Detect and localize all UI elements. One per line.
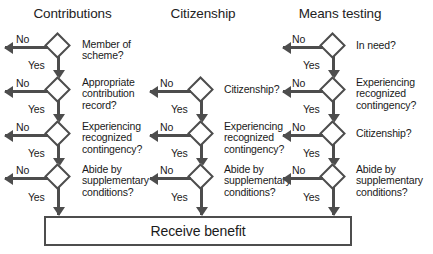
node-label-member-of-scheme: Member of scheme?: [82, 39, 144, 62]
yes-branch-label-c3: Yes: [28, 147, 45, 159]
no-branch-label-c4: No: [16, 164, 29, 176]
no-branch-label-m1: No: [292, 33, 305, 45]
no-branch-label-c3: No: [16, 121, 29, 133]
yes-branch-label-m1: Yes: [303, 59, 320, 71]
node-label-supplementary-contributions: Abide by supplementary conditions?: [82, 164, 152, 198]
no-branch-label-z2: No: [160, 77, 173, 89]
no-branch-label-c1: No: [16, 33, 29, 45]
decision-node-contingency-contributions[interactable]: [44, 120, 71, 147]
yes-branch-label-z4: Yes: [171, 191, 188, 203]
flowchart-canvas: Contributions Citizenship Means testing …: [0, 0, 433, 254]
no-branch-label-z4: No: [160, 164, 173, 176]
yes-branch-label-z3: Yes: [171, 147, 188, 159]
column-header-citizenship: Citizenship: [150, 6, 256, 21]
decision-node-supplementary-contributions[interactable]: [44, 163, 71, 190]
decision-node-supplementary-means[interactable]: [319, 163, 346, 190]
no-branch-label-z3: No: [160, 121, 173, 133]
decision-node-citizenship-col2[interactable]: [187, 76, 214, 103]
yes-branch-label-c4: Yes: [28, 191, 45, 203]
terminal-node-label: Receive benefit: [150, 223, 245, 239]
decision-node-member-of-scheme[interactable]: [44, 32, 71, 59]
decision-node-citizenship-means[interactable]: [319, 120, 346, 147]
node-label-supplementary-means: Abide by supplementary conditions?: [356, 164, 430, 198]
no-branch-label-c2: No: [16, 77, 29, 89]
decision-node-contingency-citizenship[interactable]: [187, 120, 214, 147]
column-header-means-testing: Means testing: [276, 6, 404, 21]
yes-branch-label-m2: Yes: [303, 103, 320, 115]
node-label-citizenship-means: Citizenship?: [356, 128, 428, 139]
yes-branch-label-m3: Yes: [303, 147, 320, 159]
column-header-contributions: Contributions: [0, 6, 145, 21]
node-label-contingency-citizenship: Experiencing recognized contingency?: [224, 121, 290, 155]
no-branch-label-m2: No: [292, 77, 305, 89]
node-label-contribution-record: Appropriate contribution record?: [82, 77, 148, 111]
node-label-in-need: In need?: [356, 40, 422, 51]
yes-branch-label-z2: Yes: [171, 103, 188, 115]
yes-branch-label-c1: Yes: [28, 59, 45, 71]
decision-node-supplementary-citizenship[interactable]: [187, 163, 214, 190]
node-label-contingency-means: Experiencing recognized contingency?: [356, 77, 430, 111]
yes-branch-label-c2: Yes: [28, 103, 45, 115]
decision-node-contingency-means[interactable]: [319, 76, 346, 103]
decision-node-in-need[interactable]: [319, 32, 346, 59]
decision-node-contribution-record[interactable]: [44, 76, 71, 103]
no-branch-label-m4: No: [292, 164, 305, 176]
node-label-contingency-contributions: Experiencing recognized contingency?: [82, 121, 148, 155]
no-branch-label-m3: No: [292, 121, 305, 133]
yes-branch-label-m4: Yes: [303, 191, 320, 203]
terminal-node-receive-benefit[interactable]: Receive benefit: [44, 216, 352, 246]
